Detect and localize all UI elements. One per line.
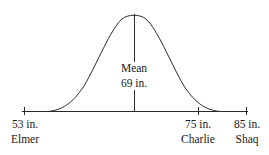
mean-value: 69 in.	[116, 77, 152, 90]
marker-elmer: 53 in. Elmer	[6, 118, 44, 146]
marker-charlie: 75 in. Charlie	[178, 118, 218, 146]
marker-name: Shaq	[228, 133, 266, 146]
marker-name: Elmer	[6, 133, 44, 146]
marker-value: 85 in.	[228, 118, 266, 131]
mean-label: Mean	[116, 62, 152, 75]
mean-label-box: Mean 69 in.	[116, 62, 152, 90]
marker-name: Charlie	[178, 133, 218, 146]
marker-shaq: 85 in. Shaq	[228, 118, 266, 146]
marker-value: 53 in.	[6, 118, 44, 131]
marker-value: 75 in.	[178, 118, 218, 131]
